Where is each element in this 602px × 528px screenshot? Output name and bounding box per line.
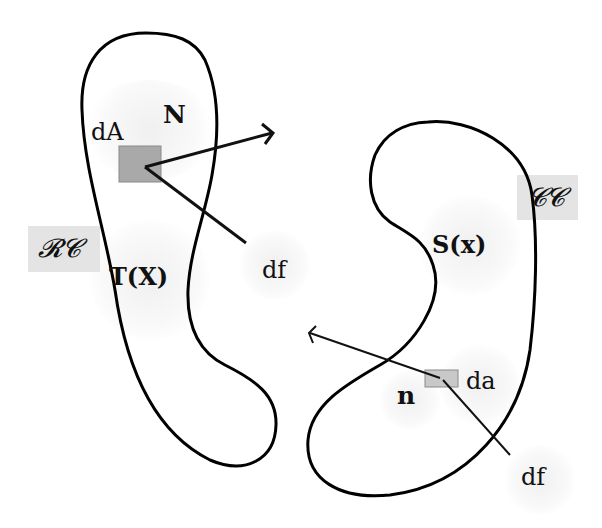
current-area-label: da bbox=[466, 369, 496, 393]
current-force-label: df bbox=[521, 465, 545, 489]
diagram-shapes bbox=[0, 0, 602, 528]
force-line-reference bbox=[145, 167, 246, 243]
normal-arrow-n bbox=[310, 333, 440, 378]
normal-arrow-N bbox=[145, 133, 272, 167]
reference-body-outline bbox=[82, 33, 276, 466]
current-traction-label: S(x) bbox=[432, 233, 486, 257]
current-area-patch bbox=[425, 370, 458, 387]
diagram-canvas: 𝓡𝓒 dA N T(X) df 𝓒𝓒 S(x) da n df bbox=[0, 0, 602, 528]
reference-force-label: df bbox=[262, 258, 286, 282]
current-config-tag: 𝓒𝓒 bbox=[528, 184, 564, 210]
reference-normal-label: N bbox=[163, 102, 186, 127]
reference-traction-label: T(X) bbox=[109, 265, 168, 289]
current-body-outline bbox=[308, 122, 536, 496]
reference-area-label: dA bbox=[91, 120, 124, 144]
reference-config-tag: 𝓡𝓒 bbox=[38, 235, 80, 261]
current-normal-label: n bbox=[397, 383, 415, 408]
